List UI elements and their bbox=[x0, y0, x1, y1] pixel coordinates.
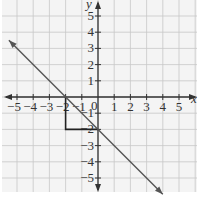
coordinate-plane: −5−4−3−2−112345 54321−1−2−3−4−5 x y 0 bbox=[0, 0, 199, 203]
x-tick-label: −3 bbox=[39, 99, 53, 114]
y-tick-label: −4 bbox=[80, 154, 94, 169]
x-tick-label: −4 bbox=[23, 99, 37, 114]
y-tick-label: 2 bbox=[88, 57, 95, 72]
y-tick-label: 1 bbox=[88, 73, 95, 88]
x-tick-label: 5 bbox=[176, 99, 183, 114]
plot-background bbox=[2, 0, 197, 192]
x-tick-label: −5 bbox=[7, 99, 21, 114]
x-tick-label: 4 bbox=[160, 99, 167, 114]
y-tick-label: 3 bbox=[88, 40, 95, 55]
x-tick-label: 3 bbox=[143, 99, 150, 114]
y-tick-label: −3 bbox=[80, 138, 94, 153]
y-axis-label: y bbox=[84, 0, 92, 11]
x-tick-label: 2 bbox=[127, 99, 134, 114]
x-axis-label: x bbox=[190, 91, 197, 106]
origin-label: 0 bbox=[91, 98, 98, 113]
x-tick-label: 1 bbox=[111, 99, 118, 114]
x-tick-label: −2 bbox=[56, 99, 70, 114]
y-tick-label: −5 bbox=[80, 170, 94, 185]
y-tick-label: 4 bbox=[88, 24, 95, 39]
